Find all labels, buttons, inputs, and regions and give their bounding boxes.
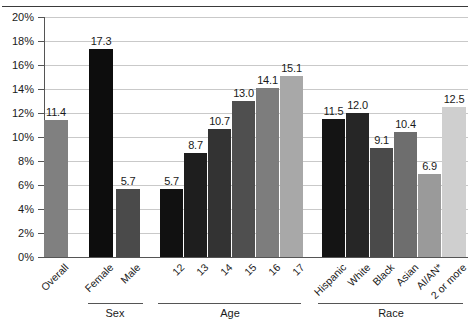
y-axis-tick bbox=[38, 89, 44, 90]
group-bracket-line bbox=[318, 303, 463, 304]
bar: 5.7 bbox=[116, 189, 140, 257]
bar-value-label: 15.1 bbox=[281, 62, 302, 74]
bar: 13.0 bbox=[232, 101, 255, 257]
y-axis-label: 4% bbox=[0, 203, 34, 215]
header-rule bbox=[2, 6, 468, 7]
y-axis-tick bbox=[38, 65, 44, 66]
bar-value-label: 13.0 bbox=[233, 87, 254, 99]
bar-value-label: 9.1 bbox=[374, 134, 389, 146]
y-axis-label: 16% bbox=[0, 59, 34, 71]
bar: 11.4 bbox=[44, 120, 68, 257]
y-axis-label: 2% bbox=[0, 227, 34, 239]
y-axis-label: 10% bbox=[0, 131, 34, 143]
bar: 11.5 bbox=[322, 119, 345, 257]
bar: 8.7 bbox=[184, 153, 207, 257]
bar-value-label: 12.0 bbox=[347, 99, 368, 111]
y-axis-label: 0% bbox=[0, 251, 34, 263]
bar-value-label: 14.1 bbox=[257, 74, 278, 86]
y-axis-label: 18% bbox=[0, 35, 34, 47]
bar: 12.0 bbox=[346, 113, 369, 257]
y-axis-tick bbox=[38, 41, 44, 42]
group-bracket-line bbox=[158, 303, 301, 304]
bar: 6.9 bbox=[418, 174, 441, 257]
bar: 9.1 bbox=[370, 148, 393, 257]
x-axis-line bbox=[38, 257, 468, 258]
bar: 10.4 bbox=[394, 132, 417, 257]
y-axis-tick bbox=[38, 113, 44, 114]
bar-value-label: 11.5 bbox=[324, 105, 344, 117]
bar-chart: 0%2%4%6%8%10%12%14%16%18%20% 11.417.35.7… bbox=[0, 0, 472, 327]
group-label: Sex bbox=[106, 307, 125, 319]
y-axis-label: 20% bbox=[0, 11, 34, 23]
bar: 17.3 bbox=[89, 49, 113, 257]
y-axis-label: 12% bbox=[0, 107, 34, 119]
y-axis-tick bbox=[38, 17, 44, 18]
group-label: Race bbox=[378, 307, 404, 319]
group-label: Age bbox=[220, 307, 240, 319]
bar-value-label: 5.7 bbox=[121, 175, 136, 187]
plot-area: 11.417.35.75.78.710.713.014.115.111.512.… bbox=[44, 17, 468, 257]
bar-value-label: 11.4 bbox=[46, 106, 66, 118]
bar: 5.7 bbox=[160, 189, 183, 257]
group-bracket-line bbox=[88, 303, 143, 304]
bar-value-label: 17.3 bbox=[91, 35, 112, 47]
bar: 15.1 bbox=[280, 76, 303, 257]
bar-value-label: 10.4 bbox=[395, 118, 416, 130]
bar: 10.7 bbox=[208, 129, 231, 257]
y-axis-label: 14% bbox=[0, 83, 34, 95]
bar-value-label: 8.7 bbox=[188, 139, 203, 151]
bar-value-label: 10.7 bbox=[209, 115, 230, 127]
y-axis-label: 6% bbox=[0, 179, 34, 191]
bar: 14.1 bbox=[256, 88, 279, 257]
gridline bbox=[44, 17, 468, 18]
bar-value-label: 5.7 bbox=[164, 175, 179, 187]
bar-value-label: 6.9 bbox=[422, 160, 437, 172]
bar: 12.5 bbox=[442, 107, 466, 257]
bar-value-label: 12.5 bbox=[444, 93, 465, 105]
y-axis-label: 8% bbox=[0, 155, 34, 167]
